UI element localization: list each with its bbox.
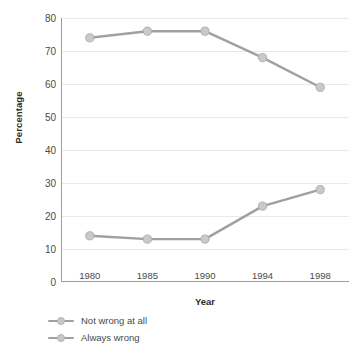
y-tick-label: 60 xyxy=(45,79,56,90)
x-tick-label: 1990 xyxy=(194,270,215,281)
data-point xyxy=(259,54,267,62)
legend-item[interactable]: Not wrong at all xyxy=(48,312,147,329)
x-axis-title: Year xyxy=(61,296,349,307)
data-point xyxy=(259,202,267,210)
y-tick-label: 30 xyxy=(45,178,56,189)
x-tick-label: 1994 xyxy=(252,270,273,281)
y-tick-label: 10 xyxy=(45,244,56,255)
y-tick-label: 50 xyxy=(45,112,56,123)
y-axis-title: Percentage xyxy=(13,68,24,168)
y-tick-label: 20 xyxy=(45,211,56,222)
data-point xyxy=(86,232,94,240)
legend-marker-icon xyxy=(48,315,74,327)
y-tick-label: 70 xyxy=(45,46,56,57)
y-tick-label: 40 xyxy=(45,145,56,156)
data-point xyxy=(316,186,324,194)
series-line xyxy=(90,31,320,87)
legend-label: Always wrong xyxy=(81,332,140,343)
legend-item[interactable]: Always wrong xyxy=(48,329,147,346)
x-tick-label: 1980 xyxy=(79,270,100,281)
x-tick-label: 1985 xyxy=(137,270,158,281)
line-chart: Percentage 01020304050607080 19801985199… xyxy=(0,0,357,357)
data-point xyxy=(143,235,151,243)
plot-area: 01020304050607080 xyxy=(61,18,349,282)
legend-marker-icon xyxy=(48,332,74,344)
series-line xyxy=(90,190,320,240)
legend-label: Not wrong at all xyxy=(81,315,147,326)
y-tick-label: 0 xyxy=(50,277,56,288)
data-point xyxy=(201,235,209,243)
data-point xyxy=(143,27,151,35)
chart-legend: Not wrong at allAlways wrong xyxy=(48,312,147,346)
x-tick-label: 1998 xyxy=(310,270,331,281)
data-point xyxy=(201,27,209,35)
data-point xyxy=(316,83,324,91)
y-tick-label: 80 xyxy=(45,13,56,24)
series-layer xyxy=(61,18,349,282)
data-point xyxy=(86,34,94,42)
